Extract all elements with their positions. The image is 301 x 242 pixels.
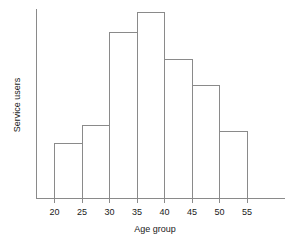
bar-50-55: [220, 132, 248, 199]
x-tick-label-55: 55: [242, 207, 252, 217]
x-tick-label-25: 25: [77, 207, 87, 217]
bar-35-40: [137, 13, 165, 199]
x-axis-title: Age group: [134, 224, 176, 234]
bar-20-25: [55, 144, 83, 199]
chart-canvas: 20 25 30 35 40 45 50 55 Age group Servic…: [0, 0, 301, 242]
x-tick-label-30: 30: [104, 207, 114, 217]
bar-25-30: [82, 126, 110, 199]
x-tick-label-20: 20: [49, 207, 59, 217]
histogram-figure: 20 25 30 35 40 45 50 55 Age group Servic…: [0, 0, 301, 242]
x-tick-label-40: 40: [159, 207, 169, 217]
x-tick-label-35: 35: [132, 207, 142, 217]
bar-45-50: [192, 86, 220, 199]
bar-30-35: [110, 33, 138, 199]
x-tick-label-50: 50: [214, 207, 224, 217]
x-tick-label-45: 45: [187, 207, 197, 217]
bar-40-45: [165, 60, 193, 199]
y-axis-title: Service users: [12, 77, 22, 132]
